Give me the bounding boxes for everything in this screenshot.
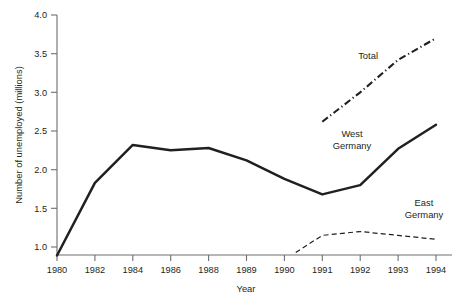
y-tick-label: 2.5 xyxy=(34,126,47,136)
x-tick-label: 1992 xyxy=(350,265,370,275)
x-axis-tick-labels: 1980 1982 1984 1986 1988 1989 1990 1991 … xyxy=(47,265,446,275)
series-line-total xyxy=(322,38,436,122)
series-label-total-text: Total xyxy=(358,50,378,61)
y-tick-label: 3.0 xyxy=(34,88,47,98)
unemployment-line-chart: 4.0 3.5 3.0 2.5 2.0 1.5 1.0 1980 1982 xyxy=(0,0,457,307)
series-label-west-line1: West xyxy=(341,128,363,139)
x-tick-label: 1984 xyxy=(123,265,143,275)
series-label-west-germany: West Germany xyxy=(333,128,372,151)
series-label-total: Total xyxy=(358,50,378,61)
y-axis-ticks xyxy=(51,15,57,247)
y-axis-title: Number of unemployed (millions) xyxy=(13,66,24,204)
y-tick-label: 1.0 xyxy=(34,242,47,252)
x-tick-label: 1991 xyxy=(312,265,332,275)
series-label-east-germany: East Germany xyxy=(405,197,444,220)
x-tick-label: 1990 xyxy=(274,265,294,275)
y-axis-tick-labels: 4.0 3.5 3.0 2.5 2.0 1.5 1.0 xyxy=(34,10,47,252)
x-tick-label: 1994 xyxy=(426,265,446,275)
x-tick-label: 1980 xyxy=(47,265,67,275)
x-axis-title: Year xyxy=(237,283,256,294)
x-tick-label: 1982 xyxy=(85,265,105,275)
series-label-east-line1: East xyxy=(415,197,434,208)
x-tick-label: 1986 xyxy=(160,265,180,275)
series-label-east-line2: Germany xyxy=(405,209,444,220)
series-label-west-line2: Germany xyxy=(333,140,372,151)
y-tick-label: 2.0 xyxy=(34,165,47,175)
series-line-east-germany xyxy=(296,232,436,253)
chart-svg: 4.0 3.5 3.0 2.5 2.0 1.5 1.0 1980 1982 xyxy=(0,0,457,307)
x-tick-label: 1989 xyxy=(236,265,256,275)
x-tick-label: 1993 xyxy=(388,265,408,275)
y-tick-label: 1.5 xyxy=(34,204,47,214)
y-tick-label: 3.5 xyxy=(34,49,47,59)
y-tick-label: 4.0 xyxy=(34,10,47,20)
x-axis-ticks xyxy=(57,255,436,261)
series-line-west-germany xyxy=(57,125,436,256)
x-tick-label: 1988 xyxy=(198,265,218,275)
